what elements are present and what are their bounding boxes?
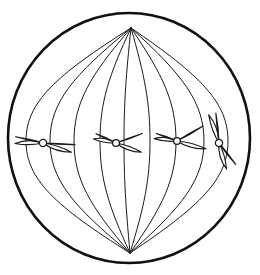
- centromere: [113, 140, 120, 147]
- mitosis-metaphase-diagram: [0, 0, 260, 275]
- centromere: [174, 138, 181, 145]
- centromere: [39, 139, 47, 147]
- cell-diagram-canvas: [0, 0, 260, 275]
